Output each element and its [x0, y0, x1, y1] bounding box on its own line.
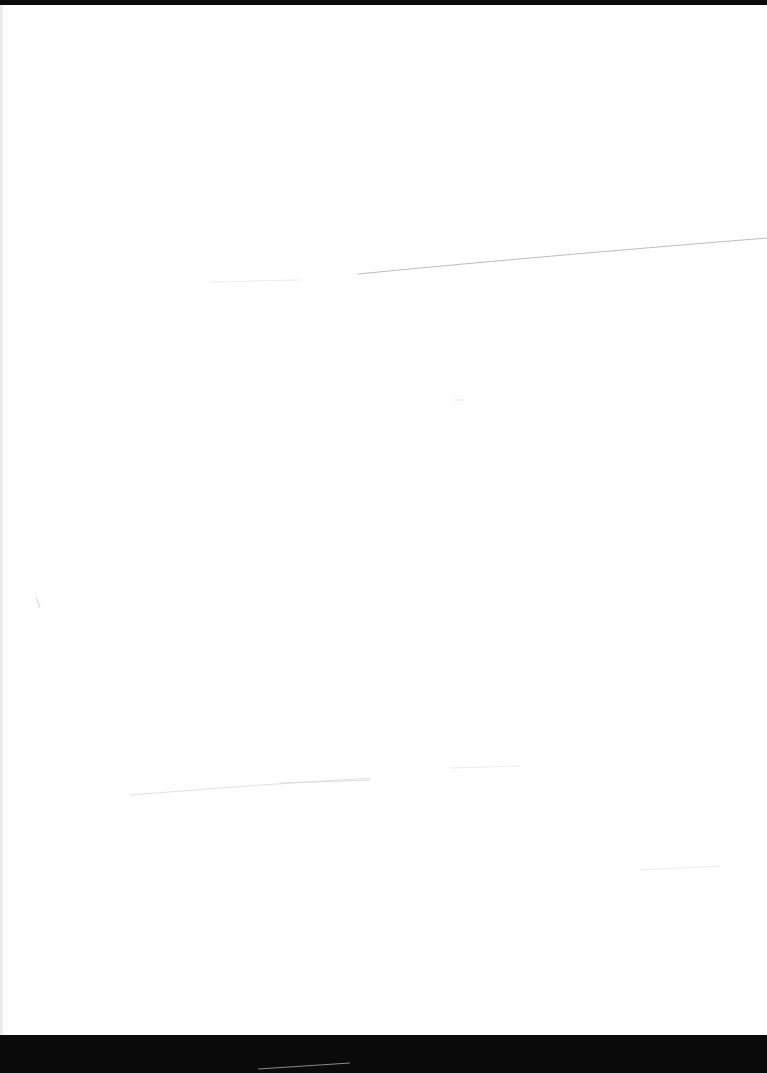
- scan-artifact-line: [258, 1063, 350, 1069]
- bottom-artifact: [0, 0, 767, 1073]
